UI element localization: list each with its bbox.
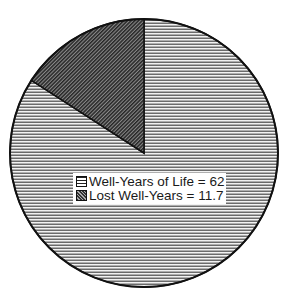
legend-label-well-years: Well-Years of Life = 62 bbox=[89, 174, 224, 189]
lost-well-years-swatch-icon bbox=[76, 190, 87, 201]
legend-item-well-years: Well-Years of Life = 62 bbox=[76, 174, 226, 189]
legend-item-lost-well-years: Lost Well-Years = 11.7 bbox=[76, 189, 226, 204]
well-years-swatch-icon bbox=[76, 176, 87, 187]
legend: Well-Years of Life = 62 Lost Well-Years … bbox=[73, 173, 226, 204]
legend-label-lost-well-years: Lost Well-Years = 11.7 bbox=[89, 188, 223, 203]
pie-chart bbox=[0, 0, 287, 301]
